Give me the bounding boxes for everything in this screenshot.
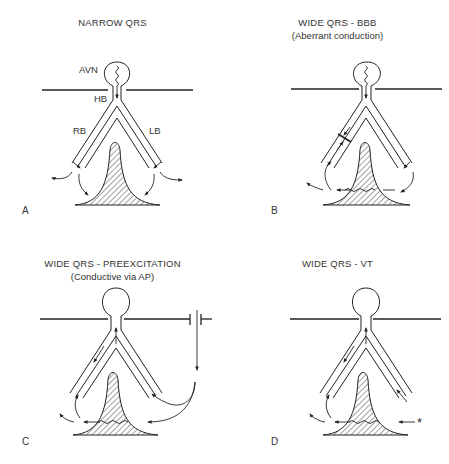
panel-letter: B [271,205,278,216]
conduction-diagram-vt [225,232,449,464]
panel-d: WIDE QRS - VT * D [225,232,449,464]
conduction-diagram-preexcitation [0,232,225,464]
panel-a: NARROW QRS AVN HB RB LB A [0,0,225,232]
panel-b: WIDE QRS - BBB (Aberrant conduction) B [225,0,449,232]
rb-label: RB [73,125,86,136]
hb-label: HB [94,93,107,104]
panel-letter: A [22,205,29,216]
conduction-diagram-bbb [225,0,449,232]
panel-letter: C [22,436,29,447]
vt-origin-star: * [417,415,422,430]
panel-letter: D [271,436,278,447]
panel-c: WIDE QRS - PREEXCITATION (Conductive via… [0,232,225,464]
conduction-diagram-narrow-qrs [0,0,225,232]
avn-label: AVN [79,64,98,75]
lb-label: LB [149,125,161,136]
